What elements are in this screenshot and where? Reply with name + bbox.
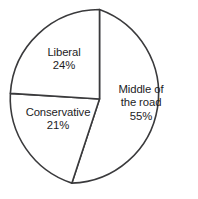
pie-slice-label-conservative: Conservative 21%: [10, 106, 106, 133]
pie-slice-label-liberal: Liberal 24%: [28, 46, 100, 73]
pie-chart: Middle of the road 55% Liberal 24% Conse…: [0, 0, 198, 199]
pie-slice-label-middle-of-the-road: Middle of the road 55%: [105, 83, 177, 123]
